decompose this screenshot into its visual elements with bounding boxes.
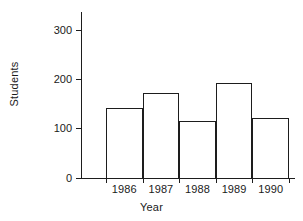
bar-1989 bbox=[216, 83, 253, 178]
y-axis-label: Students bbox=[8, 44, 20, 124]
x-tick-5 bbox=[289, 178, 290, 183]
bar-chart-figure: 0 100 200 300 1986 1987 1988 1989 1990 S… bbox=[0, 0, 303, 221]
y-tick-label-0-wrap: 0 bbox=[40, 173, 72, 184]
x-tick-label-1987: 1987 bbox=[143, 183, 180, 196]
bar-1987 bbox=[143, 93, 180, 178]
y-tick-100 bbox=[76, 128, 82, 129]
y-tick-0 bbox=[76, 178, 82, 179]
x-tick-label-1986: 1986 bbox=[106, 183, 143, 196]
y-axis-line bbox=[81, 12, 82, 179]
x-tick-label-1989: 1989 bbox=[216, 183, 253, 196]
bar-1988 bbox=[179, 121, 216, 179]
x-axis-label: Year bbox=[0, 201, 303, 213]
plot-area: 0 100 200 300 1986 1987 1988 1989 1990 bbox=[0, 0, 303, 221]
y-tick-label-300: 300 bbox=[42, 25, 72, 36]
y-tick-label-200: 200 bbox=[42, 74, 72, 85]
y-tick-300 bbox=[76, 30, 82, 31]
y-tick-label-200-wrap: 200 bbox=[40, 74, 72, 85]
bar-1990 bbox=[252, 118, 289, 178]
y-tick-label-100: 100 bbox=[42, 123, 72, 134]
x-tick-label-1990: 1990 bbox=[252, 183, 289, 196]
x-tick-label-1988: 1988 bbox=[179, 183, 216, 196]
bar-1986 bbox=[106, 108, 143, 178]
y-tick-label-100-wrap: 100 bbox=[40, 123, 72, 134]
y-tick-200 bbox=[76, 79, 82, 80]
x-axis-line bbox=[81, 178, 295, 179]
y-tick-label-0: 0 bbox=[42, 173, 72, 184]
y-tick-label-300-wrap: 300 bbox=[40, 25, 72, 36]
